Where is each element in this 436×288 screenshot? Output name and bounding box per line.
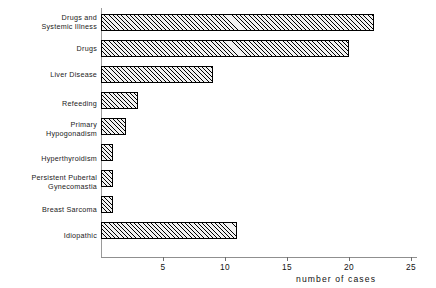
bar-idiopathic [101,222,237,239]
x-axis-title: number of cases [296,274,376,284]
x-tick-20 [349,257,350,261]
x-tick-15 [287,257,288,261]
category-label-breast-sarcoma: Breast Sarcoma [0,206,97,215]
category-label-persistent-pubertal-gynecomastia: Persistent Pubertal Gynecomastia [0,174,97,191]
category-axis-labels: Drugs and Systemic Illness Drugs Liver D… [0,0,97,255]
bar-primary-hypogonadism [101,118,126,135]
x-axis-line [101,257,417,258]
x-tick-25 [411,257,412,261]
x-tick-label-20: 20 [344,262,354,272]
x-tick-10 [225,257,226,261]
category-label-hyperthyroidism: Hyperthyroidism [0,155,97,164]
category-label-refeeding: Refeeding [0,100,97,109]
x-tick-label-15: 15 [282,262,292,272]
x-tick-5 [163,257,164,261]
plot-area: 5 10 15 20 25 number of cases [101,8,436,257]
bar-breast-sarcoma [101,196,113,213]
bar-persistent-pubertal-gynecomastia [101,170,113,187]
category-label-primary-hypogonadism: Primary Hypogonadism [0,121,97,138]
x-tick-label-25: 25 [406,262,416,272]
category-label-idiopathic: Idiopathic [0,232,97,241]
x-tick-label-10: 10 [220,262,230,272]
bar-hyperthyroidism [101,144,113,161]
bar-drugs [101,40,349,57]
bar-liver-disease [101,66,213,83]
category-label-liver-disease: Liver Disease [0,71,97,80]
category-label-drugs-and-systemic-illness: Drugs and Systemic Illness [0,14,97,31]
bar-drugs-and-systemic-illness [101,14,374,31]
bar-chart: Drugs and Systemic Illness Drugs Liver D… [0,0,436,288]
bar-refeeding [101,92,138,109]
category-label-drugs: Drugs [0,45,97,54]
x-tick-label-5: 5 [161,262,166,272]
